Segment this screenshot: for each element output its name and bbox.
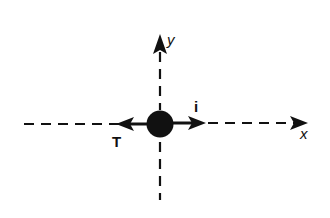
x-axis-label: x	[299, 125, 308, 142]
particle-body	[147, 111, 174, 138]
vector-i	[172, 116, 206, 130]
vector-T-label: T	[112, 133, 121, 150]
y-axis-label: y	[166, 31, 176, 48]
vector-i-label: i	[194, 98, 198, 115]
vector-T	[116, 117, 148, 131]
y-axis-arrowhead-icon	[153, 34, 167, 54]
free-body-diagram: y x T i	[0, 0, 330, 218]
